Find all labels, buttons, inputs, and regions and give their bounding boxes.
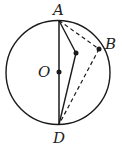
geometry-diagram: A B O D	[0, 0, 122, 148]
label-o: O	[38, 63, 50, 81]
segment-a-p	[59, 21, 76, 54]
point-b	[97, 47, 102, 52]
label-a: A	[51, 1, 64, 19]
point-o	[57, 70, 62, 75]
point-p	[74, 51, 79, 56]
label-b: B	[104, 35, 116, 53]
segment-p-d	[59, 53, 76, 125]
dashed-segment-b-d	[59, 49, 99, 125]
label-d: D	[52, 129, 65, 147]
